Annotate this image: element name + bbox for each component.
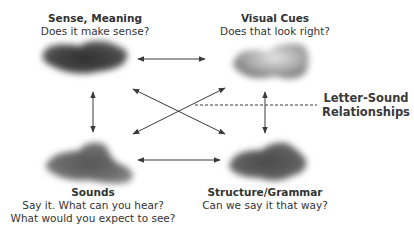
letter-sound-annotation: Letter-Sound Relationships xyxy=(318,91,414,119)
sounds-title: Sounds xyxy=(0,186,186,199)
sounds-question-1: Say it. What can you hear? xyxy=(0,199,186,212)
meaning-label: Sense, Meaning Does it make sense? xyxy=(20,12,170,38)
sounds-cloud xyxy=(46,143,133,184)
annotation-line-2: Relationships xyxy=(318,105,414,119)
meaning-cloud xyxy=(42,41,127,74)
structure-cloud xyxy=(229,143,306,181)
visual-label: Visual Cues Does that look right? xyxy=(200,12,350,38)
visual-question: Does that look right? xyxy=(200,25,350,38)
meaning-question: Does it make sense? xyxy=(20,25,170,38)
structure-label: Structure/Grammar Can we say it that way… xyxy=(195,186,335,212)
structure-title: Structure/Grammar xyxy=(195,186,335,199)
sounds-label: Sounds Say it. What can you hear? What w… xyxy=(0,186,186,225)
meaning-title: Sense, Meaning xyxy=(20,12,170,25)
visual-cloud xyxy=(233,44,308,79)
annotation-line-1: Letter-Sound xyxy=(318,91,414,105)
sounds-question-2: What would you expect to see? xyxy=(0,212,186,225)
structure-question: Can we say it that way? xyxy=(195,199,335,212)
visual-title: Visual Cues xyxy=(200,12,350,25)
